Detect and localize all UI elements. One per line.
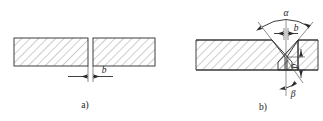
- beta-label: β: [290, 89, 296, 99]
- alpha-label: α: [284, 8, 290, 18]
- plate-a-left: [14, 38, 88, 66]
- figure-canvas: b a): [0, 0, 323, 121]
- caption-b: b): [259, 102, 267, 113]
- gap-label-b-a: b: [102, 65, 107, 75]
- beta-angle-arc: [286, 82, 296, 88]
- plate-a-right: [93, 38, 155, 66]
- alpha-leg-left: [258, 22, 272, 40]
- root-face-label-p: p: [289, 63, 299, 69]
- plate-a-right-body: [93, 38, 155, 66]
- gap-label-b-b: b: [294, 23, 299, 33]
- subfigure-a: b a): [14, 38, 155, 111]
- plate-a-left-body: [14, 38, 88, 66]
- technical-drawing-figure: b a): [0, 0, 323, 121]
- subfigure-b: α b p β b): [196, 8, 318, 113]
- caption-a: a): [81, 100, 88, 111]
